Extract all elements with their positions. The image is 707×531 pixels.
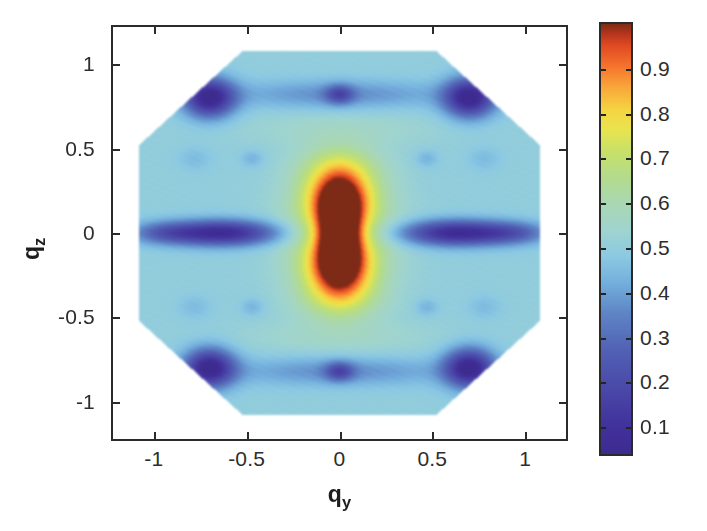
x-tick-mark-top	[525, 27, 527, 34]
colorbar-tick-mark-right	[626, 69, 631, 71]
colorbar-tick-mark-right	[626, 248, 631, 250]
colorbar-tick-mark	[601, 382, 606, 384]
y-tick-label: -1	[76, 390, 95, 414]
colorbar-tick-mark	[601, 69, 606, 71]
y-axis-title-subscript: z	[30, 238, 49, 246]
x-tick-label: 0.5	[417, 447, 447, 471]
x-tick-mark-top	[432, 27, 434, 34]
colorbar-tick-mark	[601, 248, 606, 250]
y-tick-label: 0.5	[65, 137, 95, 161]
y-axis-tick-labels: -1-0.500.51	[0, 0, 103, 531]
x-tick-mark	[525, 432, 527, 439]
x-tick-mark-top	[247, 27, 249, 34]
x-tick-mark	[247, 432, 249, 439]
y-tick-label: 0	[83, 221, 95, 245]
y-tick-label: -0.5	[58, 305, 95, 329]
colorbar-tick-mark-right	[626, 203, 631, 205]
colorbar-tick-mark	[601, 338, 606, 340]
y-axis-title: qz	[18, 209, 50, 289]
colorbar-tick-mark	[601, 114, 606, 116]
colorbar-gradient	[601, 24, 631, 454]
x-tick-label: 1	[519, 447, 531, 471]
y-tick-mark-right	[559, 317, 566, 319]
colorbar-tick-mark-right	[626, 427, 631, 429]
colorbar-tick-mark	[601, 427, 606, 429]
colorbar-tick-label: 0.6	[640, 191, 670, 215]
y-tick-mark	[113, 402, 120, 404]
figure-container: -1-0.500.51 -1-0.500.51 qy qz 0.10.20.30…	[0, 0, 707, 531]
y-tick-mark	[113, 149, 120, 151]
x-tick-label: -1	[144, 447, 163, 471]
colorbar-tick-labels: 0.10.20.30.40.50.60.70.80.9	[640, 0, 707, 531]
colorbar-tick-label: 0.2	[640, 370, 670, 394]
y-tick-mark	[113, 317, 120, 319]
colorbar-tick-mark	[601, 203, 606, 205]
colorbar-tick-label: 0.4	[640, 281, 670, 305]
colorbar-tick-mark	[601, 158, 606, 160]
colorbar-tick-mark-right	[626, 158, 631, 160]
y-tick-mark-right	[559, 64, 566, 66]
heatmap-image	[113, 27, 566, 439]
y-tick-mark	[113, 233, 120, 235]
colorbar-tick-label: 0.1	[640, 415, 670, 439]
colorbar-tick-label: 0.3	[640, 326, 670, 350]
y-tick-label: 1	[83, 52, 95, 76]
colorbar	[599, 22, 633, 456]
x-tick-mark-top	[340, 27, 342, 34]
x-tick-mark	[432, 432, 434, 439]
x-axis-title: qy	[111, 481, 568, 513]
colorbar-tick-label: 0.5	[640, 236, 670, 260]
y-tick-mark-right	[559, 402, 566, 404]
colorbar-tick-mark-right	[626, 382, 631, 384]
colorbar-tick-mark-right	[626, 114, 631, 116]
colorbar-tick-mark-right	[626, 338, 631, 340]
x-tick-label: -0.5	[228, 447, 265, 471]
plot-axes	[111, 25, 568, 441]
y-tick-mark-right	[559, 233, 566, 235]
x-axis-title-main: q	[328, 481, 342, 507]
y-tick-mark-right	[559, 149, 566, 151]
x-tick-label: 0	[334, 447, 346, 471]
colorbar-tick-label: 0.9	[640, 57, 670, 81]
colorbar-tick-mark-right	[626, 293, 631, 295]
x-axis-title-subscript: y	[342, 493, 351, 512]
x-tick-mark	[154, 432, 156, 439]
colorbar-tick-label: 0.8	[640, 102, 670, 126]
x-tick-mark-top	[154, 27, 156, 34]
x-tick-mark	[340, 432, 342, 439]
colorbar-tick-mark	[601, 293, 606, 295]
y-tick-mark	[113, 64, 120, 66]
y-axis-title-main: q	[18, 246, 44, 260]
colorbar-tick-label: 0.7	[640, 146, 670, 170]
